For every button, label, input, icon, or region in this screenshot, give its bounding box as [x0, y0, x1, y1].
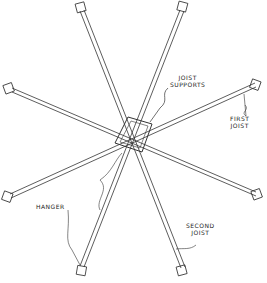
joist-diagram: JOIST SUPPORTS FIRST JOIST HANGER SECOND…	[0, 0, 267, 283]
label-line: SECOND	[186, 222, 215, 229]
label-line: JOIST	[170, 74, 205, 81]
joist-drawing	[0, 0, 267, 283]
label-line: JOIST	[186, 229, 215, 236]
first-joist-label: FIRST JOIST	[230, 115, 249, 129]
hanger-label: HANGER	[36, 203, 65, 210]
joist-supports-label: JOIST SUPPORTS	[170, 74, 205, 88]
label-line: JOIST	[230, 122, 249, 129]
label-line: FIRST	[230, 115, 249, 122]
label-line: SUPPORTS	[170, 81, 205, 88]
second-joist-label: SECOND JOIST	[186, 222, 215, 236]
